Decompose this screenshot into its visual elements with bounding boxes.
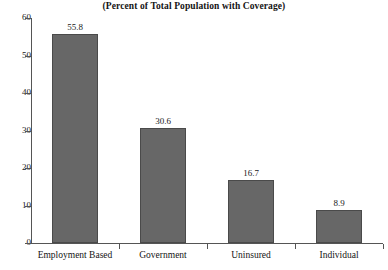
bar-value-label: 30.6 [133,116,193,126]
bar [316,210,362,243]
y-axis-tick [25,206,31,207]
bar-value-label: 16.7 [221,168,281,178]
x-axis-category-label: Uninsured [207,250,295,261]
y-axis-tick [25,168,31,169]
y-axis-tick [25,56,31,57]
x-axis-tick [295,244,296,249]
bar [140,128,186,243]
y-axis-tick [25,93,31,94]
x-axis-tick [207,244,208,249]
bar-chart: (Percent of Total Population with Covera… [0,0,388,270]
chart-title: (Percent of Total Population with Covera… [0,1,388,11]
x-axis-tick [383,244,384,249]
y-axis-tick [25,131,31,132]
x-axis-tick [119,244,120,249]
x-axis-category-label: Employment Based [31,250,119,261]
bar-value-label: 8.9 [309,198,369,208]
x-axis-category-label: Government [119,250,207,261]
y-axis-tick [25,243,31,244]
x-axis-category-label: Individual [295,250,383,261]
bar [52,34,98,243]
bar [228,180,274,243]
bar-value-label: 55.8 [45,22,105,32]
y-axis-line [31,18,32,244]
y-axis: 0102030405060 [0,0,31,270]
y-axis-tick [25,18,31,19]
